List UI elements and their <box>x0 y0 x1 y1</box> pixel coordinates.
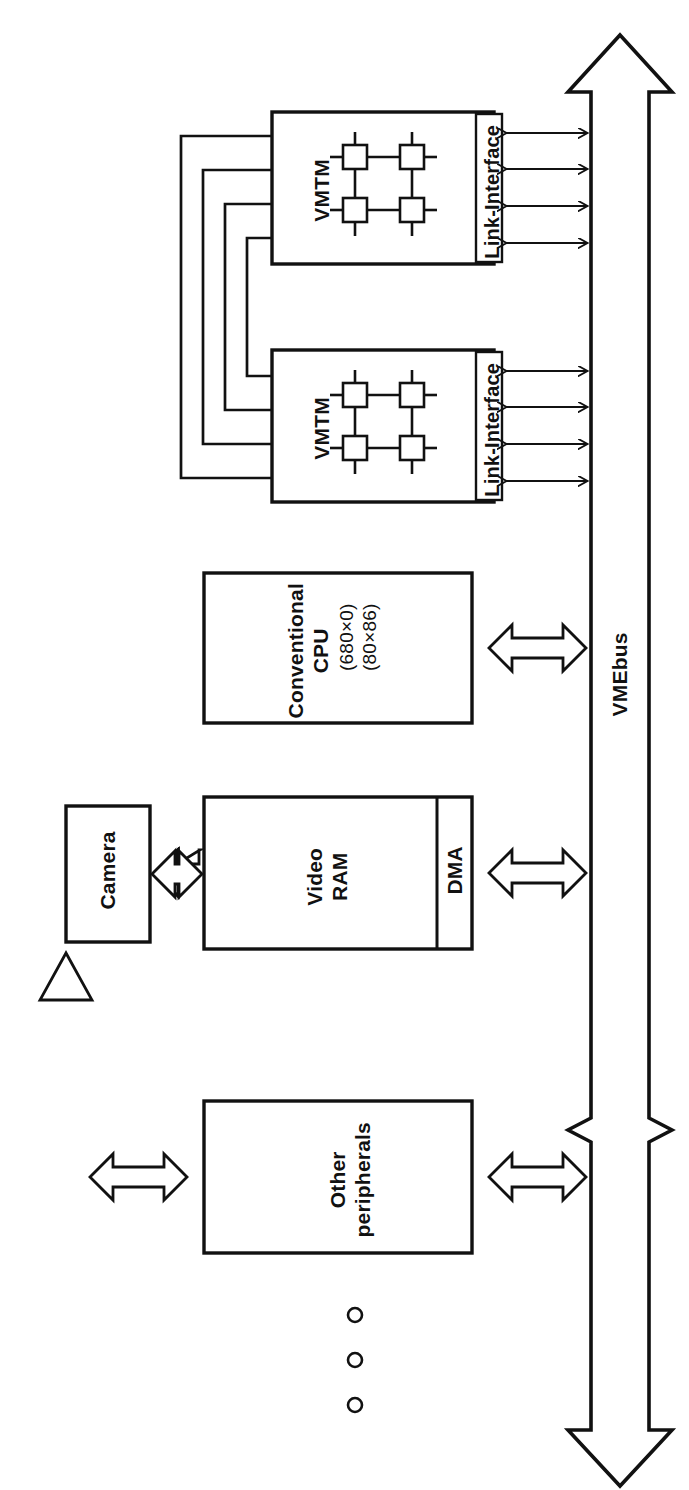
vmebus-label: VMEbus <box>608 614 633 734</box>
vmtm-top-label: VMTM <box>310 130 335 250</box>
cpu-label: Conventional CPU <box>284 581 334 721</box>
vmtm-top-outline <box>272 112 494 264</box>
vmtm-bottom-bus-arrows <box>506 371 587 481</box>
cpu-bus-connector <box>489 625 586 671</box>
figure-canvas: VMTM Link-Interface VMTM Link-Interface … <box>0 0 689 1490</box>
vmtm-bottom-label: VMTM <box>310 368 335 488</box>
vmtm-top-bus-arrows <box>506 133 587 243</box>
other-bus-connector <box>489 1154 586 1200</box>
inter-vmtm-links <box>181 136 272 478</box>
vmtm-top-link-interface-label: Link-Interface <box>481 122 505 262</box>
dma-bus-connector <box>489 850 586 896</box>
dma-label: DMA <box>443 810 468 930</box>
vmtm-bottom-outline <box>272 350 494 502</box>
diagram-vector-layer <box>0 0 689 1490</box>
video-ram-label: Video RAM <box>303 807 353 947</box>
cpu-sub-label-2: (80×86) <box>359 567 381 707</box>
vmtm-bottom-link-interface-label: Link-Interface <box>481 360 505 500</box>
ellipsis-dots <box>348 1308 362 1412</box>
camera-tripod <box>40 953 92 1000</box>
vmebus-arrow <box>568 35 672 1486</box>
other-peripherals-label: Other peripherals <box>326 1100 376 1260</box>
other-external-connector <box>90 1154 187 1200</box>
camera-label: Camera <box>96 810 121 930</box>
camera-to-ram-double-arrow <box>0 0 178 874</box>
cpu-sub-label-1: (680×0) <box>336 567 358 707</box>
